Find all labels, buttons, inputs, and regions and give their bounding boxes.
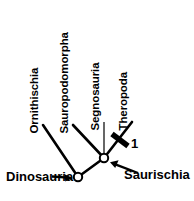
- taxon-label-ornithischia: Ornithischia: [29, 68, 41, 134]
- taxon-label-segnosauria: Segnosauria: [90, 63, 102, 131]
- node-label-saurischia: Saurischia: [124, 168, 190, 181]
- node-marker-saurischia: [100, 154, 108, 162]
- taxon-label-sauropodomorpha: Sauropodomorpha: [59, 32, 71, 133]
- cladogram-figure: Ornithischia Sauropodomorpha Segnosauria…: [0, 0, 194, 201]
- branch-mark-label-1: 1: [131, 137, 138, 150]
- taxon-label-theropoda: Theropoda: [118, 72, 130, 131]
- node-label-dinosauria: Dinosauria: [6, 170, 73, 183]
- node-marker-dinosauria: [74, 173, 82, 181]
